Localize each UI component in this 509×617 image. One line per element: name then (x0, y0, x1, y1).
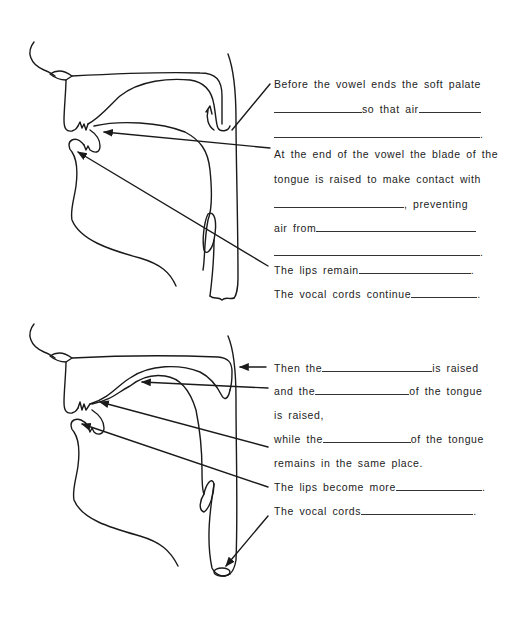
text: Before the vowel ends the soft palate (274, 78, 481, 90)
label-soft-palate-line2: so that air (274, 103, 484, 115)
diagram-2-head-profile (30, 324, 237, 576)
fill-blank[interactable] (316, 222, 476, 232)
arrow-lips-2 (82, 424, 268, 487)
text: remains in the same place. (274, 457, 423, 469)
text: The lips become more (274, 481, 396, 493)
label-lips-line2: The lips become more. (274, 481, 484, 493)
label-raised-line4: while theof the tongue (274, 433, 484, 445)
text: . (480, 128, 484, 140)
fill-blank[interactable] (274, 246, 480, 256)
arrow-soft-palate-1 (232, 84, 270, 130)
text: of the tongue (409, 385, 482, 397)
arrow-tongue-back-2 (142, 382, 268, 388)
text: . (477, 288, 481, 300)
fill-blank[interactable] (274, 128, 480, 138)
vocal-tract-diagrams (0, 0, 509, 617)
fill-blank[interactable] (323, 433, 411, 443)
text: . (473, 505, 477, 517)
label-tongue-blade-line1: At the end of the vowel the blade of the (274, 148, 484, 160)
text: . (471, 264, 475, 276)
label-soft-palate-line3: . (274, 128, 484, 140)
label-tongue-blade-line4: air from (274, 222, 484, 234)
text: . (480, 246, 484, 258)
label-tongue-blade-line2: tongue is raised to make contact with (274, 173, 484, 185)
label-tongue-blade-line5: . (274, 246, 484, 258)
text: , preventing (404, 198, 468, 210)
label-raised-line2: and theof the tongue (274, 385, 484, 397)
diagram-1-head-profile (30, 42, 238, 300)
label-lips-line1: The lips remain. (274, 264, 484, 276)
text: of the tongue (411, 433, 484, 445)
arrow-vocal-cords-2 (226, 516, 268, 566)
label-raised-line5: remains in the same place. (274, 457, 484, 469)
text: so that air (362, 103, 419, 115)
text: is raised, (274, 409, 324, 421)
label-soft-palate-line1: Before the vowel ends the soft palate (274, 78, 484, 90)
arrow-tongue-tip-2 (100, 402, 268, 447)
label-tongue-blade-line3: , preventing (274, 198, 484, 210)
fill-blank[interactable] (274, 198, 404, 208)
fill-blank[interactable] (361, 505, 473, 515)
text: air from (274, 222, 316, 234)
arrow-lips-1 (78, 152, 268, 266)
fill-blank[interactable] (322, 362, 432, 372)
arrow-tongue-blade-1 (104, 132, 270, 148)
label-vocal-cords-line1: The vocal cords continue. (274, 288, 484, 300)
text: tongue is raised to make contact with (274, 173, 481, 185)
label-raised-line3: is raised, (274, 409, 484, 421)
text: The vocal cords continue (274, 288, 411, 300)
label-vocal-cords-line2: The vocal cords. (274, 505, 484, 517)
text: The vocal cords (274, 505, 361, 517)
fill-blank[interactable] (396, 481, 482, 491)
fill-blank[interactable] (315, 385, 409, 395)
fill-blank[interactable] (359, 264, 471, 274)
text: At the end of the vowel the blade of the (274, 148, 498, 160)
fill-blank[interactable] (419, 103, 481, 113)
text: and the (274, 385, 315, 397)
text: Then the (274, 362, 322, 374)
text: . (482, 481, 486, 493)
label-raised-line1: Then theis raised (274, 362, 484, 374)
text: while the (274, 433, 323, 445)
text: The lips remain (274, 264, 359, 276)
fill-blank[interactable] (411, 288, 477, 298)
text: is raised (432, 362, 479, 374)
fill-blank[interactable] (274, 103, 362, 113)
